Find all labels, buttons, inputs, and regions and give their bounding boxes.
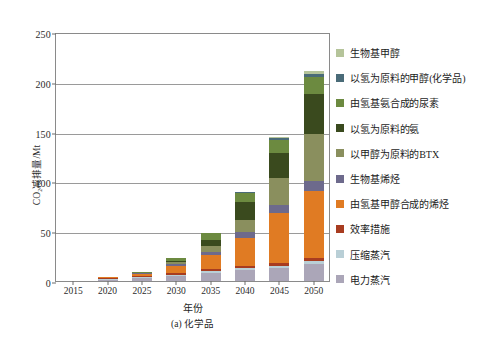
legend-item[interactable]: 以氢为原料的氨 xyxy=(336,116,482,141)
legend-swatch-icon xyxy=(336,74,344,82)
bar-2045[interactable] xyxy=(269,137,289,281)
legend-label: 压缩蒸汽 xyxy=(350,247,390,262)
legend-label: 效率措施 xyxy=(350,221,390,236)
legend-item[interactable]: 生物基烯烃 xyxy=(336,166,482,191)
x-tick-mark xyxy=(210,281,211,285)
legend-label: 由氢基氨合成的尿素 xyxy=(350,95,439,110)
legend-label: 以氢为原料的甲醇(化学品) xyxy=(350,70,465,85)
bar-segment xyxy=(166,266,186,273)
legend-item[interactable]: 生物基甲醇 xyxy=(336,40,482,65)
x-tick-mark xyxy=(73,281,74,285)
legend: 生物基甲醇以氢为原料的甲醇(化学品)由氢基氨合成的尿素以氢为原料的氨以甲醇为原料… xyxy=(336,40,482,292)
bar-segment xyxy=(166,276,186,281)
legend-item[interactable]: 由氢基甲醇合成的烯烃 xyxy=(336,191,482,216)
bar-segment xyxy=(235,193,255,202)
y-tick-label: 50 xyxy=(41,228,56,239)
y-axis-label: CO₂减排量/Mt xyxy=(29,144,43,204)
legend-label: 以甲醇为原料的BTX xyxy=(350,146,439,161)
bar-2030[interactable] xyxy=(166,258,186,281)
x-tick-label: 2045 xyxy=(270,286,289,296)
bar-2040[interactable] xyxy=(235,192,255,281)
bar-segment xyxy=(235,238,255,266)
legend-swatch-icon xyxy=(336,225,344,233)
x-tick-mark xyxy=(279,281,280,285)
legend-swatch-icon xyxy=(336,49,344,57)
figure: CO₂减排量/Mt 050100150200250 20152020202520… xyxy=(0,0,484,349)
bar-segment xyxy=(269,205,289,213)
legend-swatch-icon xyxy=(336,250,344,258)
x-tick-label: 2040 xyxy=(236,286,255,296)
legend-item[interactable]: 由氢基氨合成的尿素 xyxy=(336,90,482,115)
x-tick-label: 2050 xyxy=(304,286,323,296)
bar-segment xyxy=(269,153,289,179)
legend-swatch-icon xyxy=(336,200,344,208)
legend-label: 生物基烯烃 xyxy=(350,171,400,186)
bar-2050[interactable] xyxy=(304,71,324,281)
legend-swatch-icon xyxy=(336,99,344,107)
legend-swatch-icon xyxy=(336,149,344,157)
x-tick-label: 2030 xyxy=(167,286,186,296)
y-tick-label: 200 xyxy=(35,78,56,89)
bar-segment xyxy=(304,191,324,259)
x-tick-mark xyxy=(141,281,142,285)
legend-swatch-icon xyxy=(336,275,344,283)
gridline xyxy=(56,134,329,135)
x-tick-mark xyxy=(176,281,177,285)
x-tick-mark xyxy=(313,281,314,285)
bar-2025[interactable] xyxy=(132,272,152,281)
bar-segment xyxy=(269,213,289,263)
bar-segment xyxy=(98,280,118,281)
bar-segment xyxy=(235,220,255,232)
y-tick-label: 100 xyxy=(35,178,56,189)
legend-label: 由氢基甲醇合成的烯烃 xyxy=(350,196,449,211)
x-tick-label: 2015 xyxy=(64,286,83,296)
bar-segment xyxy=(235,202,255,220)
bar-segment xyxy=(304,264,324,281)
legend-item[interactable]: 压缩蒸汽 xyxy=(336,242,482,267)
x-tick-label: 2020 xyxy=(98,286,117,296)
y-tick-label: 0 xyxy=(46,278,56,289)
bar-segment xyxy=(304,77,324,94)
bar-segment xyxy=(269,178,289,205)
bar-segment xyxy=(304,181,324,191)
bar-segment xyxy=(235,270,255,281)
bar-segment xyxy=(201,273,221,281)
x-tick-mark xyxy=(107,281,108,285)
bar-segment xyxy=(269,268,289,281)
legend-item[interactable]: 电力蒸汽 xyxy=(336,267,482,292)
legend-label: 电力蒸汽 xyxy=(350,272,390,287)
bar-segment xyxy=(269,140,289,153)
legend-swatch-icon xyxy=(336,124,344,132)
legend-item[interactable]: 以甲醇为原料的BTX xyxy=(336,141,482,166)
bar-2035[interactable] xyxy=(201,233,221,281)
y-tick-label: 250 xyxy=(35,29,56,40)
legend-label: 生物基甲醇 xyxy=(350,45,400,60)
legend-item[interactable]: 以氢为原料的甲醇(化学品) xyxy=(336,65,482,90)
bar-segment xyxy=(304,94,324,134)
bar-segment xyxy=(201,255,221,269)
gridline xyxy=(56,84,329,85)
figure-caption: (a) 化学品 xyxy=(55,316,330,330)
x-tick-label: 2025 xyxy=(132,286,151,296)
x-axis-label: 年份 xyxy=(55,300,330,315)
legend-item[interactable]: 效率措施 xyxy=(336,216,482,241)
y-tick-label: 150 xyxy=(35,128,56,139)
bar-segment xyxy=(132,278,152,281)
legend-swatch-icon xyxy=(336,175,344,183)
x-tick-mark xyxy=(245,281,246,285)
plot-area: 050100150200250 201520202025203020352040… xyxy=(55,33,330,282)
bar-segment xyxy=(304,134,324,181)
legend-label: 以氢为原料的氨 xyxy=(350,121,419,136)
bar-2020[interactable] xyxy=(98,277,118,281)
x-tick-label: 2035 xyxy=(201,286,220,296)
